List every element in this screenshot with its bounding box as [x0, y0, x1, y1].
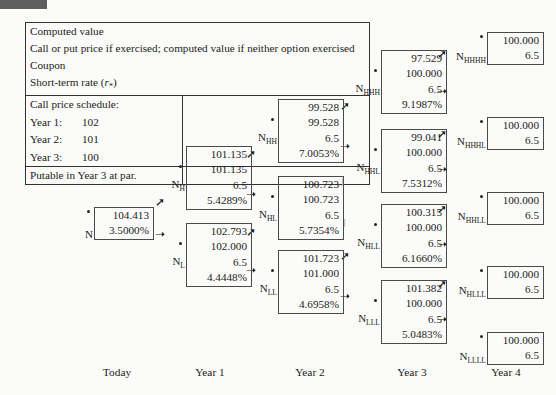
node-coupon: 6.5	[382, 312, 442, 327]
node-computed-value: 99.041	[382, 130, 442, 145]
value-bullet-icon	[271, 269, 274, 272]
node-label: NHLL	[357, 236, 381, 251]
legend-line-exercise-value: Call or put price if exercised; computed…	[26, 40, 369, 57]
schedule-price: 100	[82, 149, 122, 167]
node-box: 100.000 6.5	[487, 117, 544, 150]
value-bullet-icon	[374, 223, 377, 226]
node-box: 100.315 100.000 6.5 6.1660%	[381, 204, 447, 268]
node-coupon: 6.5	[488, 282, 539, 297]
node-coupon: 6.5	[488, 133, 539, 148]
value-bullet-icon	[271, 195, 274, 198]
node-nhhhh[interactable]: NHHHH 100.000 6.5	[487, 32, 544, 65]
node-terminal-value: 100.000	[488, 333, 539, 348]
node-nhhll[interactable]: NHHLL 100.000 6.5	[487, 192, 544, 225]
node-exercise-value: 100.000	[382, 220, 442, 235]
node-box: 100.000 6.5	[487, 32, 544, 65]
node-terminal-value: 100.000	[488, 193, 539, 208]
value-bullet-icon	[179, 242, 182, 245]
node-nh[interactable]: NH 101.135 101.135 6.5 5.4289%	[186, 146, 252, 210]
axis-label-year3: Year 3	[382, 366, 442, 378]
node-exercise-value: 100.000	[382, 66, 442, 81]
node-computed-value: 101.135	[187, 147, 247, 162]
node-nhhh[interactable]: NHHH 97.529 100.000 6.5 9.1987%	[381, 50, 447, 114]
node-short-rate: 7.0053%	[279, 146, 339, 161]
legend-line-short-rate: Short-term rate (r*)	[26, 74, 369, 95]
node-computed-value: 100.723	[279, 177, 339, 192]
node-label: NHHL	[356, 161, 381, 176]
node-short-rate: 4.4448%	[187, 270, 247, 285]
axis-label-today: Today	[87, 366, 147, 378]
value-bullet-icon	[374, 69, 377, 72]
schedule-year-label: Year 2:	[30, 131, 82, 149]
node-label: NHHH	[356, 82, 381, 97]
node-short-rate: 3.5000%	[95, 223, 149, 238]
node-computed-value: 99.528	[279, 100, 339, 115]
call-price-schedule: Call price schedule: Year 1:102 Year 2:1…	[26, 96, 183, 166]
schedule-row-year2: Year 2:101	[26, 131, 182, 149]
node-box: 100.000 6.5	[487, 266, 544, 299]
node-nhh[interactable]: NHH 99.528 99.528 6.5 7.0053%	[278, 99, 344, 163]
value-bullet-icon	[179, 165, 182, 168]
node-computed-value: 104.413	[95, 208, 149, 223]
node-exercise-value: 101.135	[187, 162, 247, 177]
node-coupon: 6.5	[187, 255, 247, 270]
axis-label-year1: Year 1	[180, 366, 240, 378]
node-short-rate: 5.4289%	[187, 193, 247, 208]
node-short-rate: 7.5312%	[382, 176, 442, 191]
node-exercise-value: 100.000	[382, 296, 442, 311]
value-bullet-icon	[374, 148, 377, 151]
node-label: NLLL	[358, 312, 381, 327]
schedule-price: 101	[82, 131, 122, 149]
arrow-root-to-nh: ➚	[155, 196, 165, 208]
node-terminal-value: 100.000	[488, 118, 539, 133]
node-coupon: 6.5	[382, 82, 442, 97]
value-bullet-icon	[480, 195, 483, 198]
node-nhhl[interactable]: NHHL 99.041 100.000 6.5 7.5312%	[381, 129, 447, 193]
node-short-rate: 5.0483%	[382, 327, 442, 342]
node-nlll[interactable]: NLLL 101.382 100.000 6.5 5.0483%	[381, 280, 447, 344]
schedule-year-label: Year 1:	[30, 114, 82, 132]
node-coupon: 6.5	[187, 178, 247, 193]
node-terminal-value: 100.000	[488, 267, 539, 282]
node-box: 100.000 6.5	[487, 192, 544, 225]
schedule-title: Call price schedule:	[26, 96, 182, 114]
node-label: NL	[172, 255, 186, 270]
node-coupon: 6.5	[279, 282, 339, 297]
node-box: 101.135 101.135 6.5 5.4289%	[186, 146, 252, 210]
node-nhhhl[interactable]: NHHHL 100.000 6.5	[487, 117, 544, 150]
schedule-row-year3: Year 3:100	[26, 149, 182, 167]
node-label: NHH	[258, 131, 278, 146]
node-box: 100.723 100.723 6.5 5.7354%	[278, 176, 344, 240]
node-coupon: 6.5	[279, 131, 339, 146]
value-bullet-icon	[480, 120, 483, 123]
value-bullet-icon	[374, 299, 377, 302]
node-coupon: 6.5	[488, 48, 539, 63]
figure-canvas: Computed value Call or put price if exer…	[0, 0, 556, 395]
node-nll[interactable]: NLL 101.723 101.000 6.5 4.6958%	[278, 250, 344, 314]
node-box: 104.413 3.5000%	[94, 207, 154, 240]
node-nhlll[interactable]: NHLLL 100.000 6.5	[487, 266, 544, 299]
axis-label-year4: Year 4	[476, 366, 536, 378]
node-nllll[interactable]: NLLLL 100.000 6.5	[487, 332, 544, 365]
node-box: 101.382 100.000 6.5 5.0483%	[381, 280, 447, 344]
value-bullet-icon	[480, 335, 483, 338]
node-label: NHHLL	[458, 210, 487, 225]
schedule-row-year1: Year 1:102	[26, 114, 182, 132]
corner-marker	[0, 0, 47, 9]
node-nhll[interactable]: NHLL 100.315 100.000 6.5 6.1660%	[381, 204, 447, 268]
arrow-root-to-nl: ➝	[155, 228, 165, 240]
value-bullet-icon	[480, 35, 483, 38]
node-coupon: 6.5	[279, 208, 339, 223]
node-label: NHL	[259, 208, 278, 223]
putable-note: Putable in Year 3 at par.	[26, 167, 183, 184]
node-root[interactable]: N 104.413 3.5000%	[94, 207, 154, 240]
node-nhl[interactable]: NHL 100.723 100.723 6.5 5.7354%	[278, 176, 344, 240]
schedule-year-label: Year 3:	[30, 149, 82, 167]
node-nl[interactable]: NL 102.793 102.000 6.5 4.4448%	[186, 223, 252, 287]
node-label: NH	[172, 178, 186, 193]
node-label: NHHHH	[456, 50, 487, 65]
node-box: 102.793 102.000 6.5 4.4448%	[186, 223, 252, 287]
node-computed-value: 100.315	[382, 205, 442, 220]
node-terminal-value: 100.000	[488, 33, 539, 48]
node-label: NHLLL	[459, 284, 487, 299]
